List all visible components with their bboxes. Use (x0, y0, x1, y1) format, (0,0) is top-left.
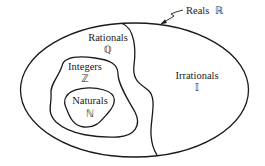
integers-label: Integers (68, 61, 102, 72)
irrationals-symbol: 𝕀 (195, 82, 199, 93)
naturals-symbol: ℕ (86, 108, 94, 119)
reals-label: Reals ℝ (186, 5, 223, 16)
number-sets-diagram: Reals ℝ Rationals ℚ Integers ℤ Naturals … (0, 0, 265, 166)
rationals-label: Rationals (88, 32, 128, 43)
reals-pointer-arrowhead-icon (160, 20, 167, 25)
reals-pointer-line (164, 10, 183, 22)
integers-symbol: ℤ (81, 73, 88, 84)
rationals-symbol: ℚ (104, 44, 112, 55)
naturals-label: Naturals (72, 95, 108, 106)
irrationals-label: Irrationals (175, 70, 218, 81)
